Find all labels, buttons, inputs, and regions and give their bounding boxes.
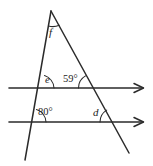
angle-label-e: e (45, 74, 50, 85)
angle-arc-59 (79, 76, 86, 88)
angle-label-59: 59° (63, 74, 78, 85)
angle-label-80: 80° (38, 107, 53, 118)
angle-label-f: f (49, 27, 52, 38)
geometry-figure: f e 59° 80° d (0, 0, 153, 166)
angle-label-d: d (93, 107, 99, 118)
left-transversal (25, 11, 51, 160)
